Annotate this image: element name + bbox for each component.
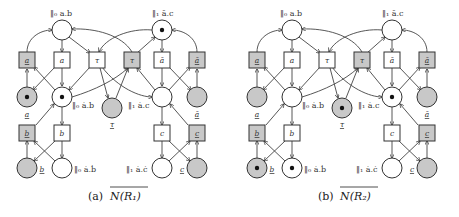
place-bot-right-gray: [417, 158, 437, 178]
place-label-bot-left: ‖₀ ȧ.ḃ: [304, 165, 326, 174]
figure-a: a a τ τ ā ā b b c c a τ ā b c ‖₀ a.b ‖₁ …: [17, 9, 207, 203]
place-tau: [102, 98, 122, 118]
caption-b-prefix: (b): [318, 190, 334, 203]
transition-label: a: [255, 56, 259, 65]
place-top-left: [52, 20, 72, 40]
place-label: τ: [110, 120, 115, 129]
place-label-bot-left: ‖₀ ȧ.ḃ: [74, 165, 96, 174]
place-label-top-right: ‖₁ ā.c: [152, 9, 174, 18]
place-label-bot-right: ‖₁ ȧ.ċ: [356, 165, 378, 174]
caption-b-math: N(R₂): [339, 190, 371, 203]
place-label: a: [255, 110, 259, 119]
transition-label: a: [60, 56, 64, 65]
place-label-top-right: ‖₁ ā.c: [382, 9, 404, 18]
transition-label: b: [25, 129, 30, 138]
token: [290, 166, 294, 170]
token: [255, 166, 259, 170]
place-bot-left-gray: [17, 158, 37, 178]
place-label-top-left: ‖₀ a.b: [280, 9, 302, 18]
token: [390, 95, 394, 99]
place-mid-left: [282, 87, 302, 107]
token: [160, 28, 164, 32]
place-label-top-left: ‖₀ a.b: [50, 9, 72, 18]
place-label: ā: [425, 110, 429, 119]
place-bot-right: [382, 158, 402, 178]
place-label: b: [40, 165, 45, 174]
token: [340, 106, 344, 110]
place-label-bot-right: ‖₁ ȧ.ċ: [126, 165, 148, 174]
transition-label: b: [60, 129, 65, 138]
transition-label: ā: [390, 56, 394, 65]
place-label: a: [25, 110, 29, 119]
place-mid-right-gray: [187, 87, 207, 107]
place-bot-left: [52, 158, 72, 178]
caption-a-math: N(R₁): [109, 190, 141, 203]
place-bot-right-gray: [187, 158, 207, 178]
transition-label: b: [290, 129, 295, 138]
transition-label: b: [255, 129, 260, 138]
transition-label: ā: [195, 56, 199, 65]
place-label-mid-left: ‖₀ ȧ.b: [72, 101, 94, 110]
place-label-mid-right: ‖₁ ȧ.c: [358, 101, 380, 110]
place-label-mid-right: ‖₁ ȧ.c: [128, 101, 150, 110]
place-label-mid-left: ‖₀ ȧ.b: [302, 101, 324, 110]
token: [60, 95, 64, 99]
place-label: τ: [340, 120, 345, 129]
place-mid-right-gray: [417, 87, 437, 107]
transition-label: ā: [425, 56, 429, 65]
place-label: b: [270, 165, 275, 174]
caption-a-prefix: (a): [88, 190, 103, 203]
place-label: c: [410, 165, 415, 174]
transition-label: a: [290, 56, 294, 65]
place-bot-right: [152, 158, 172, 178]
place-label: ā: [195, 110, 199, 119]
place-mid-right: [152, 87, 172, 107]
place-top-right: [382, 20, 402, 40]
figure-b: a a τ τ ā ā b b c c a τ ā b c ‖₀ a.b ‖₁ …: [247, 9, 437, 203]
place-mid-left-gray: [247, 87, 267, 107]
place-top-left: [282, 20, 302, 40]
transition-label: a: [25, 56, 29, 65]
petri-net-figure: a a τ τ ā ā b b c c a τ ā b c ‖₀ a.b ‖₁ …: [0, 0, 459, 217]
token: [25, 95, 29, 99]
place-label: c: [180, 165, 185, 174]
transition-label: ā: [160, 56, 164, 65]
